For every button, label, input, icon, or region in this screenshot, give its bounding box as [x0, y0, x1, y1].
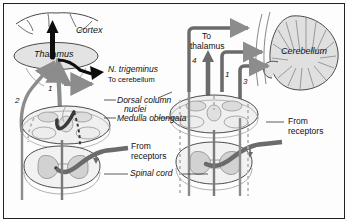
pathway-number-right-4: 4 — [192, 56, 196, 65]
from-receptors-right-label-line2: receptors — [288, 127, 323, 136]
medulla-section-left — [22, 106, 110, 149]
pathway-number-right-3: 3 — [243, 77, 247, 86]
spinal-cord-label: Spinal cord — [130, 169, 173, 178]
to-cerebellum-arrow-left — [62, 68, 92, 84]
from-receptors-left-label-line2: receptors — [131, 152, 166, 161]
to-thalamus-arrow — [202, 50, 214, 96]
figure-canvas: Cortex Thalamus N. trigeminus To cerebel… — [0, 0, 350, 224]
from-receptors-left-label-line1: From — [131, 142, 151, 151]
pathway-number-right-1: 1 — [225, 70, 229, 79]
anatomy-illustration — [0, 0, 350, 224]
from-receptors-right-label-line1: From — [288, 117, 308, 126]
cerebellum-label: Cerebellum — [281, 47, 327, 56]
to-thalamus-label-line2: thalamus — [190, 42, 225, 51]
to-cerebellum-label: To cerebellum — [108, 76, 155, 84]
to-thalamus-label-line1: To — [202, 32, 211, 41]
medulla-oblongata-label: Medulla oblongata — [117, 114, 186, 123]
n-trigeminus-label: N. trigeminus — [108, 65, 158, 74]
cortex-label: Cortex — [76, 26, 103, 35]
pathway-number-left-2: 2 — [15, 96, 19, 105]
pathway-number-left-1: 1 — [48, 84, 52, 93]
thalamus-label: Thalamus — [34, 50, 74, 59]
